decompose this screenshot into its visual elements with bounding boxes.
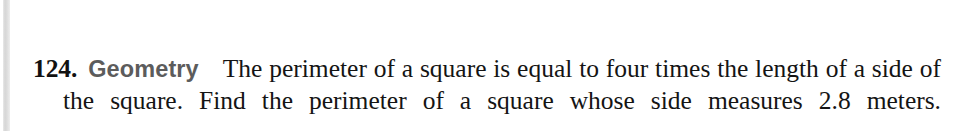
exercise-paragraph: 124.GeometryThe perimeter of a square is… [63,53,941,132]
exercise-number: 124. [33,54,77,83]
exercise-item: 124.GeometryThe perimeter of a square is… [0,0,970,131]
exercise-topic-label: Geometry [88,56,199,82]
